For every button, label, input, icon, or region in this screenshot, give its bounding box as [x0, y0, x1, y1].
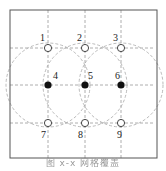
- node-label-1: 1: [40, 32, 45, 43]
- node-label-3: 3: [113, 32, 118, 43]
- node-open-1: [44, 44, 51, 51]
- node-open-9: [117, 119, 124, 126]
- node-open-7: [44, 119, 51, 126]
- node-label-9: 9: [117, 129, 122, 140]
- node-label-8: 8: [78, 129, 83, 140]
- node-label-2: 2: [77, 32, 82, 43]
- node-filled-4: [44, 81, 51, 88]
- node-label-6: 6: [115, 70, 120, 81]
- grid-coverage-diagram: 123456789: [0, 0, 166, 171]
- node-filled-6: [117, 81, 124, 88]
- node-label-4: 4: [53, 70, 58, 81]
- node-label-5: 5: [88, 70, 93, 81]
- node-label-7: 7: [41, 129, 46, 140]
- node-open-2: [81, 44, 88, 51]
- figure-caption: 图 x-x 网格覆盖: [0, 156, 166, 169]
- node-open-3: [117, 44, 124, 51]
- node-filled-5: [81, 81, 88, 88]
- node-open-8: [81, 119, 88, 126]
